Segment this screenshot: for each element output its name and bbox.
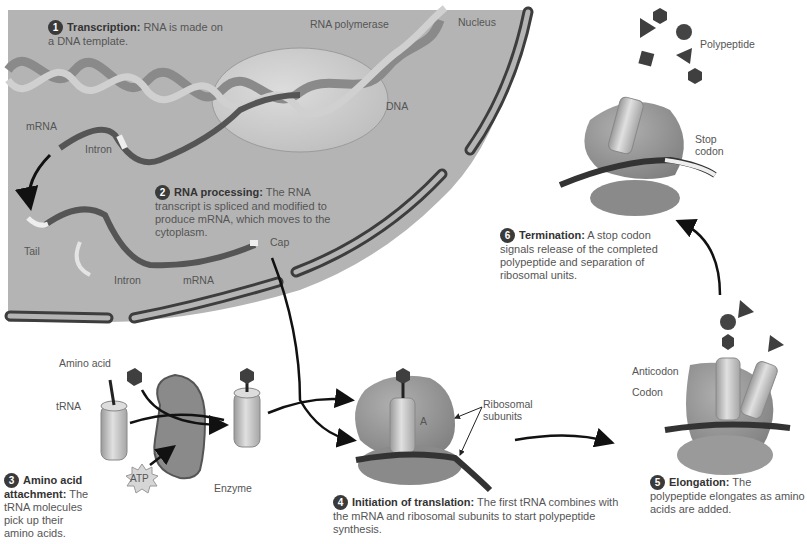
step-5-caption: 5Elongation: The polypeptide elongates a… <box>650 475 805 516</box>
enzyme <box>154 375 205 478</box>
trna-label: tRNA <box>56 400 81 412</box>
stop-codon-label: Stop codon <box>695 133 731 157</box>
intron-label-top: Intron <box>85 143 112 155</box>
ribosome-initiation <box>355 368 490 490</box>
anticodon-label: Anticodon <box>632 365 679 377</box>
ribosome-elongation <box>665 300 790 475</box>
trna-charged <box>234 368 260 447</box>
step-number-badge: 5 <box>650 475 665 490</box>
step-number-badge: 1 <box>48 20 63 35</box>
mrna-label-bottom: mRNA <box>183 274 214 286</box>
enzyme-label: Enzyme <box>214 482 252 494</box>
codon-label: Codon <box>632 386 663 398</box>
rna-polymerase <box>212 48 388 152</box>
gene-expression-diagram <box>0 0 807 544</box>
atp-label: ATP <box>130 473 149 485</box>
ribosomal-subunits-label: Ribosomal subunits <box>483 398 533 422</box>
amino-acid-label: Amino acid <box>59 357 111 369</box>
step-number-badge: 4 <box>333 495 348 510</box>
ribosome-termination <box>560 96 715 216</box>
step-3-caption: 3Amino acid attachment: The tRNA molecul… <box>4 473 94 540</box>
amino-acid <box>127 368 142 386</box>
step-number-badge: 3 <box>4 473 19 488</box>
tail-label: Tail <box>24 245 40 257</box>
step-6-caption: 6Termination: A stop codon signals relea… <box>500 228 675 282</box>
mrna-label-top: mRNA <box>26 120 57 132</box>
dna-label: DNA <box>386 100 408 112</box>
trna-uncharged <box>101 380 127 460</box>
rna-polymerase-label: RNA polymerase <box>310 18 389 30</box>
step-1-caption: 1Transcription: RNA is made on a DNA tem… <box>48 20 228 48</box>
polypeptide-label: Polypeptide <box>700 38 755 50</box>
step-number-badge: 2 <box>155 185 170 200</box>
nucleus-label: Nucleus <box>458 16 496 28</box>
a-site-label: A <box>420 415 427 427</box>
polypeptide-released <box>638 8 702 84</box>
step-2-caption: 2RNA processing: The RNA transcript is s… <box>155 185 345 239</box>
cap <box>250 240 258 246</box>
step-4-caption: 4Initiation of translation: The first tR… <box>333 495 623 536</box>
intron-label-bottom: Intron <box>114 274 141 286</box>
step-number-badge: 6 <box>500 228 515 243</box>
